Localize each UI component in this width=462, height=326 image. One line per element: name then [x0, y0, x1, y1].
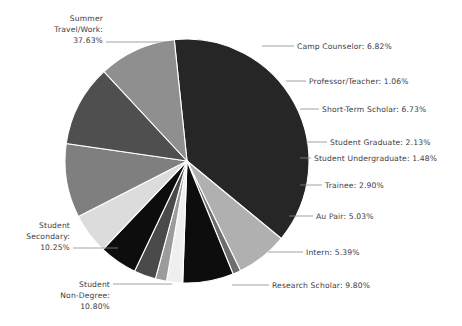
slice-label: Research Scholar: 9.80%	[272, 281, 370, 290]
slice-label-line: Secondary:	[26, 232, 70, 241]
slice-label-line: Non-Degree:	[60, 291, 110, 300]
slice-label-line: Intern: 5.39%	[306, 248, 360, 257]
slice-label-line: Summer	[70, 14, 104, 23]
slice-label-line: Short-Term Scholar: 6.73%	[322, 105, 426, 114]
slice-label-line: Camp Counselor: 6.82%	[297, 42, 392, 51]
slice-label-line: Research Scholar: 9.80%	[272, 281, 370, 290]
slice-label: Camp Counselor: 6.82%	[297, 42, 392, 51]
slice-label: Student Graduate: 2.13%	[330, 138, 431, 147]
slice-label-line: Professor/Teacher: 1.06%	[309, 77, 409, 86]
slice-label-line: Trainee: 2.90%	[324, 181, 384, 190]
slice-label: StudentSecondary:10.25%	[26, 221, 70, 252]
slice-label-line: Student Undergraduate: 1.48%	[314, 154, 437, 163]
slice-label-line: Travel/Work:	[53, 25, 103, 34]
slice-label-line: 37.63%	[73, 36, 103, 45]
slice-label: Au Pair: 5.03%	[316, 212, 374, 221]
slice-label: Intern: 5.39%	[306, 248, 360, 257]
slice-label: Professor/Teacher: 1.06%	[309, 77, 409, 86]
slice-label: Trainee: 2.90%	[324, 181, 384, 190]
slice-label: SummerTravel/Work:37.63%	[53, 14, 103, 45]
slice-label-line: 10.25%	[40, 243, 70, 252]
slice-label-line: 10.80%	[80, 302, 110, 311]
pie-slices-group	[65, 39, 309, 283]
slice-label-line: Student Graduate: 2.13%	[330, 138, 431, 147]
pie-chart-svg: SummerTravel/Work:37.63%Camp Counselor: …	[0, 0, 462, 326]
pie-chart-figure: SummerTravel/Work:37.63%Camp Counselor: …	[0, 0, 462, 326]
slice-label: StudentNon-Degree:10.80%	[60, 280, 110, 311]
slice-label: Short-Term Scholar: 6.73%	[322, 105, 426, 114]
slice-label-line: Student	[39, 221, 70, 230]
slice-label-line: Au Pair: 5.03%	[316, 212, 374, 221]
slice-label: Student Undergraduate: 1.48%	[314, 154, 437, 163]
slice-label-line: Student	[79, 280, 110, 289]
